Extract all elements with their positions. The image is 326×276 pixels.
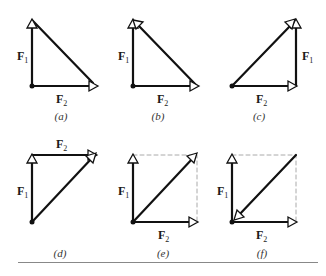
panel-a (27, 19, 98, 91)
origin-dot (30, 84, 35, 89)
resultant-vector (238, 155, 296, 216)
divider-rule (18, 262, 318, 263)
f1-label: F1 (217, 184, 228, 200)
panel-b (128, 19, 199, 91)
resultant-vector (137, 24, 197, 86)
origin-dot (230, 220, 235, 225)
caption-b: (b) (152, 110, 165, 122)
origin-dot (131, 220, 136, 225)
caption-f: (f) (257, 247, 267, 259)
f1-label: F1 (118, 184, 129, 200)
panel-e (128, 153, 198, 227)
f1-label: F1 (118, 49, 129, 65)
resultant-vector (232, 24, 292, 86)
caption-a: (a) (55, 110, 68, 122)
resultant-vector (32, 158, 92, 222)
panel-f (227, 154, 297, 227)
f1-label: F1 (17, 49, 28, 65)
f2-label: F2 (56, 92, 67, 108)
f1-label: F1 (302, 49, 313, 65)
origin-dot (30, 220, 35, 225)
panel-d (27, 150, 97, 225)
caption-c: (c) (253, 110, 265, 122)
f2-label: F2 (158, 228, 169, 244)
resultant-vector (32, 20, 93, 83)
caption-d: (d) (54, 247, 67, 259)
caption-e: (e) (157, 247, 169, 259)
f2-label: F2 (157, 92, 168, 108)
f1-label: F1 (17, 184, 28, 200)
resultant-vector (133, 158, 193, 222)
f2-label: F2 (256, 228, 267, 244)
f2-label: F2 (56, 137, 67, 153)
panel-c (230, 19, 302, 91)
f2-label: F2 (256, 92, 267, 108)
origin-dot (131, 84, 136, 89)
origin-dot (230, 84, 235, 89)
